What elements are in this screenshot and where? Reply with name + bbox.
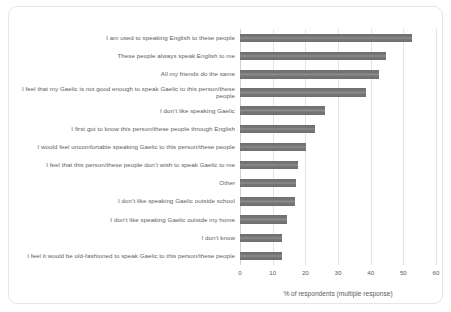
category-label: I don’t like speaking Gaelic outside my … (19, 216, 235, 224)
x-tick-40: 40 (367, 269, 374, 276)
bar-row (240, 174, 436, 192)
x-tick-20: 20 (302, 269, 309, 276)
bar (240, 34, 412, 42)
bar-row (240, 156, 436, 174)
bar (240, 70, 379, 78)
bar-row (240, 247, 436, 265)
bar (240, 179, 296, 187)
bar-row (240, 211, 436, 229)
category-label: I feel that my Gaelic is not good enough… (19, 85, 235, 101)
x-tick-50: 50 (400, 269, 407, 276)
x-tick-0: 0 (238, 269, 241, 276)
category-label: I don’t like speaking Gaelic (19, 107, 235, 115)
category-label: These people always speak English to me (19, 52, 235, 60)
gridline-60 (436, 29, 437, 265)
bar (240, 88, 366, 96)
bar-series (240, 29, 436, 265)
bar (240, 252, 282, 260)
bar-row (240, 47, 436, 65)
bar-row (240, 102, 436, 120)
x-tick-30: 30 (335, 269, 342, 276)
x-axis-tick-labels: 0102030405060 (240, 269, 436, 281)
bar-row (240, 29, 436, 47)
bar (240, 234, 282, 242)
category-label: I would feel uncomfortable speaking Gael… (19, 143, 235, 151)
bar-row (240, 120, 436, 138)
bar-row (240, 192, 436, 210)
bar-row (240, 229, 436, 247)
bar (240, 215, 287, 223)
category-label: I am used to speaking English to these p… (19, 34, 235, 42)
plot-area (240, 29, 436, 265)
bar-row (240, 83, 436, 101)
category-axis-labels: I am used to speaking English to these p… (19, 29, 235, 265)
x-tick-10: 10 (269, 269, 276, 276)
x-axis-title: % of respondents (multiple response) (240, 290, 436, 297)
bar (240, 52, 386, 60)
bar (240, 143, 306, 151)
bar (240, 125, 315, 133)
category-label: I don’t know (19, 234, 235, 242)
category-label: I don’t like speaking Gaelic outside sch… (19, 197, 235, 205)
x-tick-60: 60 (433, 269, 440, 276)
bar (240, 106, 325, 114)
category-label: Other (19, 179, 235, 187)
category-label: I feel it would be old-fashioned to spea… (19, 252, 235, 260)
category-label: I feel that this person/these people don… (19, 161, 235, 169)
bar (240, 197, 295, 205)
bar (240, 161, 298, 169)
category-label: I first got to know this person/these pe… (19, 125, 235, 133)
bar-row (240, 65, 436, 83)
category-label: All my friends do the same (19, 70, 235, 78)
bar-row (240, 138, 436, 156)
chart-frame: I am used to speaking English to these p… (8, 6, 443, 304)
